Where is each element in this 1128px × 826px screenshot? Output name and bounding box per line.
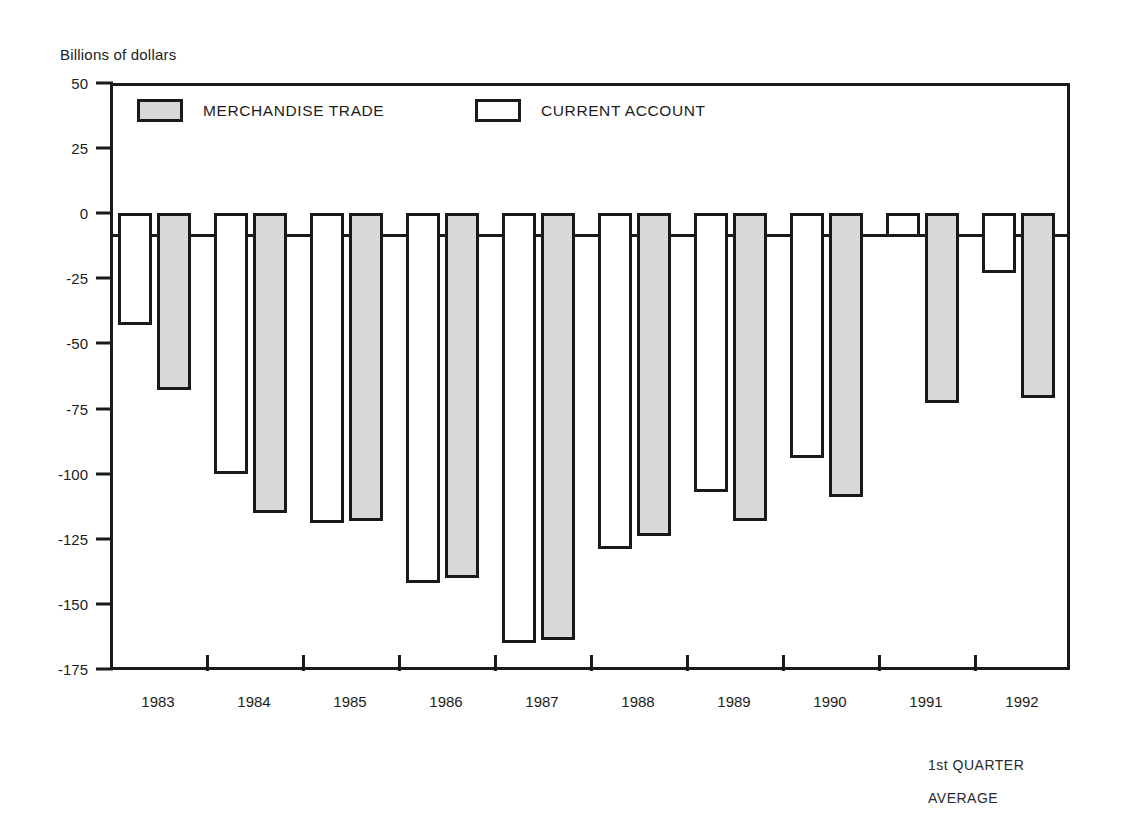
bar-current-account: [406, 213, 440, 583]
bar-merchandise-trade: [253, 213, 287, 513]
bar-current-account: [214, 213, 248, 473]
y-axis-tick-mark: [96, 537, 113, 540]
y-axis-title: Billions of dollars: [60, 46, 176, 63]
bar-current-account: [310, 213, 344, 523]
x-axis-tick-label: 1985: [333, 693, 366, 710]
x-axis-tick-label: 1986: [429, 693, 462, 710]
y-axis-tick-label: -150: [36, 595, 88, 612]
x-axis-tick-label: 1988: [621, 693, 654, 710]
legend-label-current-account: CURRENT ACCOUNT: [541, 102, 706, 120]
y-axis-tick-label: 25: [36, 140, 88, 157]
bar-merchandise-trade: [1021, 213, 1055, 398]
y-axis-tick-mark: [96, 277, 113, 280]
x-axis-tick-label: 1989: [717, 693, 750, 710]
bar-current-account: [502, 213, 536, 643]
x-axis-tick-mark: [782, 655, 785, 671]
x-axis-tick-label: 1984: [237, 693, 270, 710]
bar-current-account: [982, 213, 1016, 273]
bar-merchandise-trade: [541, 213, 575, 640]
bar-current-account: [118, 213, 152, 325]
x-axis-tick-label: 1987: [525, 693, 558, 710]
x-axis-tick-mark: [206, 655, 209, 671]
x-axis-tick-mark: [398, 655, 401, 671]
y-axis-tick-mark: [96, 602, 113, 605]
bar-current-account: [598, 213, 632, 549]
bar-current-account: [886, 213, 920, 236]
x-axis-tick-mark: [974, 655, 977, 671]
footnote-line-2: AVERAGE: [928, 790, 998, 806]
bar-current-account: [694, 213, 728, 492]
x-axis-tick-mark: [302, 655, 305, 671]
legend-label-merchandise-trade: MERCHANDISE TRADE: [203, 102, 384, 120]
bar-merchandise-trade: [349, 213, 383, 520]
bar-merchandise-trade: [637, 213, 671, 536]
footnote-line-1: 1st QUARTER: [928, 757, 1024, 773]
y-axis-tick-label: -125: [36, 530, 88, 547]
bar-merchandise-trade: [733, 213, 767, 520]
y-axis-tick-label: -175: [36, 661, 88, 678]
x-axis-tick-mark: [878, 655, 881, 671]
y-axis-tick-mark: [96, 407, 113, 410]
legend-item-merchandise-trade: MERCHANDISE TRADE: [137, 99, 384, 122]
x-axis-tick-mark: [494, 655, 497, 671]
bar-current-account: [790, 213, 824, 458]
y-axis-tick-mark: [96, 212, 113, 215]
y-axis-tick-label: -75: [36, 400, 88, 417]
y-axis-tick-label: 0: [36, 205, 88, 222]
legend-swatch-merchandise-trade: [137, 99, 183, 122]
legend-swatch-current-account: [475, 99, 521, 122]
x-axis-tick-label: 1990: [813, 693, 846, 710]
bar-merchandise-trade: [445, 213, 479, 578]
x-axis-tick-label: 1992: [1005, 693, 1038, 710]
x-axis-tick-mark: [686, 655, 689, 671]
bar-chart: Billions of dollars 50250-25-50-75-100-1…: [0, 0, 1128, 826]
y-axis-tick-mark: [96, 472, 113, 475]
y-axis-tick-label: -25: [36, 270, 88, 287]
y-axis-tick-label: -100: [36, 465, 88, 482]
y-axis-tick-label: 50: [36, 75, 88, 92]
y-axis-tick-mark: [96, 668, 113, 671]
y-axis-tick-label: -50: [36, 335, 88, 352]
bar-merchandise-trade: [157, 213, 191, 390]
x-axis-tick-label: 1983: [141, 693, 174, 710]
bar-merchandise-trade: [829, 213, 863, 497]
y-axis-tick-mark: [96, 342, 113, 345]
x-axis-tick-mark: [590, 655, 593, 671]
y-axis-tick-mark: [96, 82, 113, 85]
legend-item-current-account: CURRENT ACCOUNT: [475, 99, 706, 122]
x-axis-tick-label: 1991: [909, 693, 942, 710]
y-axis-tick-mark: [96, 147, 113, 150]
bar-merchandise-trade: [925, 213, 959, 403]
